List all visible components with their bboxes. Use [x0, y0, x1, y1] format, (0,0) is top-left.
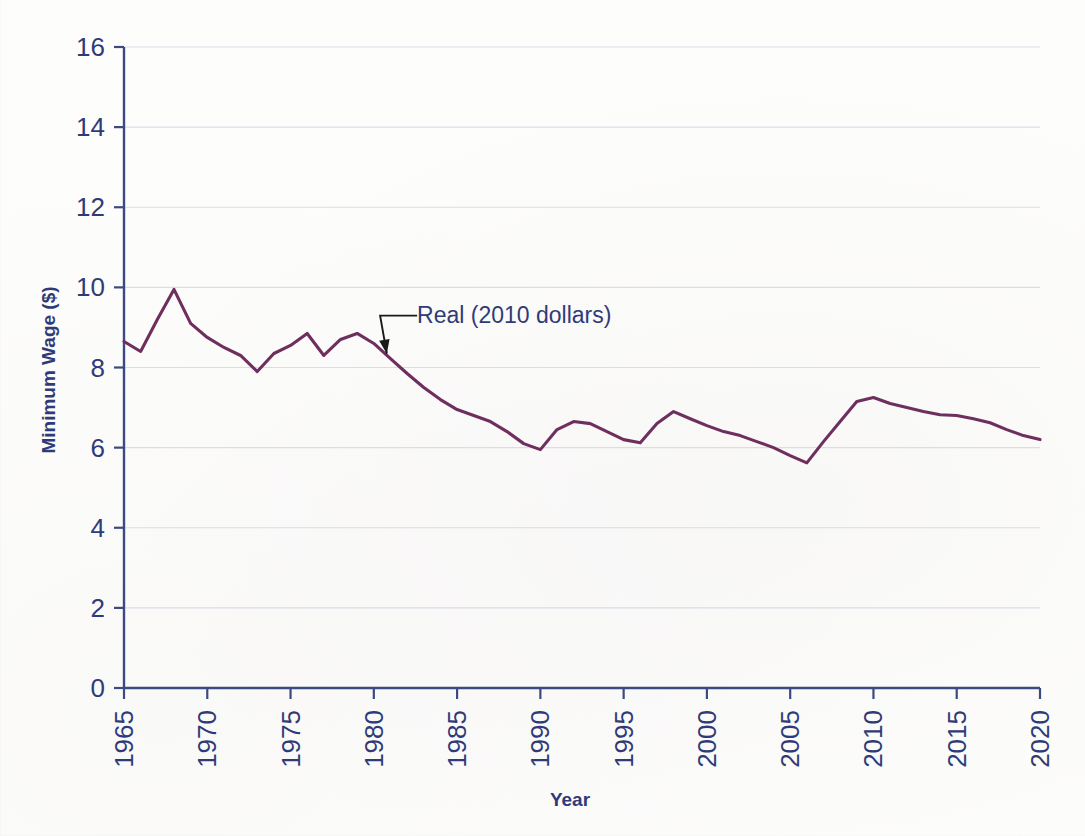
minimum-wage-line-chart: 0246810121416 19651970197519801985199019… [0, 0, 1085, 836]
y-axis-tick-label: 10 [76, 272, 105, 302]
x-axis-tick-label: 1975 [276, 710, 306, 768]
y-axis-tick-label: 14 [76, 112, 105, 142]
x-axis-tick-label: 1985 [442, 710, 472, 768]
x-axis-tick-label: 2010 [858, 710, 888, 768]
chart-page: 0246810121416 19651970197519801985199019… [0, 0, 1085, 836]
x-axis-tick-label: 2015 [942, 710, 972, 768]
y-axis-tick-label: 8 [91, 353, 105, 383]
x-axis-tick-label: 1970 [192, 710, 222, 768]
x-axis-tick-label: 1980 [359, 710, 389, 768]
y-axis-tick-label: 0 [91, 673, 105, 703]
y-axis-tick-label: 12 [76, 192, 105, 222]
x-axis-ticks-group [124, 688, 1040, 699]
y-axis-tick-label: 2 [91, 593, 105, 623]
x-axis-tick-label: 1990 [525, 710, 555, 768]
y-axis-tick-labels-group: 0246810121416 [76, 32, 105, 703]
annotation-label-real-2010-dollars: Real (2010 dollars) [417, 302, 611, 328]
x-axis-tick-label: 2020 [1025, 710, 1055, 768]
x-axis-tick-label: 2000 [692, 710, 722, 768]
y-axis-tick-label: 6 [91, 433, 105, 463]
x-axis-tick-label: 1965 [109, 710, 139, 768]
y-axis-ticks-group [114, 47, 124, 688]
x-axis-title: Year [550, 789, 591, 810]
y-axis-title: Minimum Wage ($) [38, 286, 59, 453]
y-axis-tick-label: 4 [91, 513, 105, 543]
x-axis-tick-labels-group: 1965197019751980198519901995200020052010… [109, 710, 1055, 768]
x-axis-tick-label: 2005 [775, 710, 805, 768]
annotation-group: Real (2010 dollars) [379, 302, 611, 354]
x-axis-tick-label: 1995 [609, 710, 639, 768]
y-axis-tick-label: 16 [76, 32, 105, 62]
